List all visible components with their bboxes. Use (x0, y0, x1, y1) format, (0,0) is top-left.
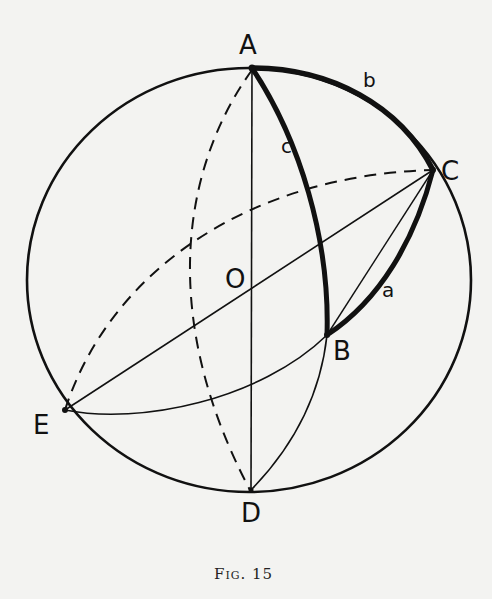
arc-BD (251, 335, 327, 490)
label-B: B (333, 338, 351, 364)
label-b: b (363, 70, 376, 90)
label-D: D (241, 500, 261, 526)
figure-caption: Fig. 15 (214, 565, 273, 583)
diameter-AD (251, 68, 252, 490)
label-O: O (225, 266, 245, 292)
arc-EB (65, 335, 327, 414)
label-C: C (441, 158, 459, 184)
arc-c-AB (252, 68, 327, 335)
point-D (249, 488, 254, 493)
chord-CB (327, 170, 433, 335)
point-A (249, 65, 256, 72)
label-a: a (382, 280, 394, 300)
label-c: c (281, 136, 292, 156)
point-C (430, 167, 436, 173)
figure-15: A b c C O a B E D Fig. 15 (0, 0, 492, 599)
point-E (62, 407, 68, 413)
label-E: E (33, 412, 49, 438)
label-A: A (239, 32, 257, 58)
point-B (324, 332, 330, 338)
